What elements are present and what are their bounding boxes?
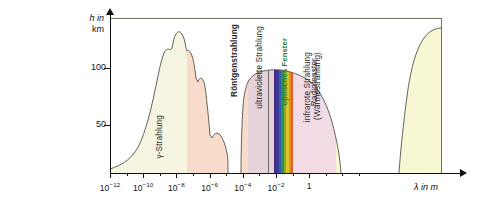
x-tick-label-1e-4-exp: −4: [244, 181, 251, 188]
x-tick-label-1e-4-base: 10: [234, 183, 244, 193]
x-tick-1e1: [326, 173, 327, 176]
x-tick-1e2: [342, 173, 343, 176]
y-axis-title: h in km: [42, 13, 104, 35]
y-axis-arrow: [106, 8, 114, 15]
x-tick-label-1e-8-base: 10: [168, 183, 178, 193]
y-tick-label-100: 100: [91, 62, 106, 72]
x-tick-1e-5: [226, 173, 227, 176]
x-tick-1e-11: [127, 173, 128, 176]
x-tick-label-1e-10-base: 10: [133, 183, 143, 193]
y-tick-label-50: 50: [96, 119, 106, 129]
x-tick-1: [309, 173, 310, 178]
x-tick-1e-7: [193, 173, 194, 176]
x-tick-label-1e-6: 10−6: [201, 181, 218, 193]
x-tick-label-1e-12-exp: −12: [109, 181, 120, 188]
x-tick-label-1e-2: 10−2: [268, 181, 285, 193]
x-tick-1e-4: [243, 173, 244, 178]
plot-frame-top: [110, 18, 442, 19]
x-tick-1e-12: [110, 173, 111, 178]
x-tick-label-1e-10: 10−10: [133, 181, 153, 193]
x-tick-label-1e-6-base: 10: [201, 183, 211, 193]
atmospheric-transmission-diagram: γ-Strahlung Röntgenstrahlung ultraviolet…: [0, 0, 477, 215]
x-tick-1e-9: [160, 173, 161, 176]
x-axis-arrow: [460, 169, 467, 177]
x-tick-label-1e-8-exp: −8: [178, 181, 185, 188]
x-axis-title-text: λ in m: [414, 182, 438, 192]
x-axis-line: [110, 173, 460, 174]
x-axis-title: λ in m: [414, 182, 438, 192]
x-tick-label-1-base: 1: [307, 181, 312, 191]
label-ultraviolet-radiation: ultraviolette Strahlung: [255, 26, 265, 109]
x-tick-1e-8: [176, 173, 177, 178]
label-xray-radiation: Röntgenstrahlung: [230, 24, 240, 97]
x-tick-label-1e-2-exp: −2: [277, 181, 284, 188]
label-optical-window: optisches Fenster: [280, 38, 290, 106]
x-tick-1e-1: [293, 173, 294, 176]
x-tick-label-1e-10-exp: −10: [143, 181, 154, 188]
y-axis-line: [110, 14, 111, 175]
label-radio-window: Radiofenster: [310, 58, 320, 106]
x-tick-label-1: 1: [307, 181, 312, 191]
x-tick-label-1e-2-base: 10: [268, 183, 278, 193]
x-tick-1e-3: [259, 173, 260, 176]
x-tick-1e-6: [210, 173, 211, 178]
plot-frame-right: [441, 18, 442, 173]
x-tick-label-1e-8: 10−8: [168, 181, 185, 193]
x-tick-label-1e-4: 10−4: [234, 181, 251, 193]
x-tick-label-1e-6-exp: −6: [211, 181, 218, 188]
label-gamma-radiation: γ-Strahlung: [155, 115, 165, 159]
x-tick-label-1e-12: 10−12: [100, 181, 120, 193]
x-tick-1e3: [359, 173, 360, 176]
x-tick-label-1e-12-base: 10: [100, 183, 110, 193]
x-tick-1e-2: [276, 173, 277, 178]
y-axis-title-line2: km: [92, 24, 104, 34]
y-axis-title-line1: h in: [89, 13, 104, 23]
plot-area: γ-Strahlung Röntgenstrahlung ultraviolet…: [110, 18, 442, 173]
x-tick-1e-10: [143, 173, 144, 178]
